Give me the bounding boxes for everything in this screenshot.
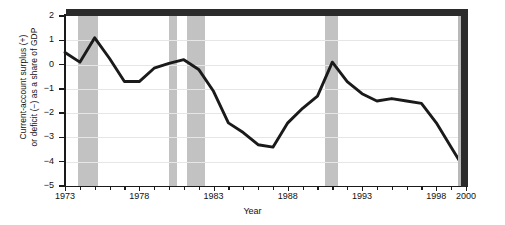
y-tick-label: −2 (20, 107, 54, 117)
x-tick-label: 1983 (192, 191, 236, 201)
x-tick-mark (258, 186, 259, 190)
x-tick-mark (184, 186, 185, 190)
x-tick-mark (228, 186, 229, 190)
x-tick-mark (243, 186, 244, 190)
x-tick-label: 1988 (266, 191, 310, 201)
x-tick-mark (169, 186, 170, 190)
x-tick-mark (407, 186, 408, 190)
y-tick-label: −5 (20, 180, 54, 190)
x-tick-mark (303, 186, 304, 190)
series-line (65, 38, 466, 172)
chart-figure: Current-account surplus (+) or deficit (… (0, 0, 505, 225)
x-axis-label: Year (0, 206, 505, 216)
y-tick-mark (59, 64, 65, 65)
x-tick-label: 2000 (444, 191, 488, 201)
x-tick-mark (80, 186, 81, 190)
x-tick-mark (421, 186, 422, 190)
x-tick-mark (377, 186, 378, 190)
x-tick-mark (332, 186, 333, 190)
x-tick-mark (451, 186, 452, 190)
x-tick-mark (392, 186, 393, 190)
y-tick-label: 0 (20, 59, 54, 69)
y-tick-label: −1 (20, 83, 54, 93)
data-series-line (65, 16, 466, 186)
x-tick-mark (273, 186, 274, 190)
x-tick-mark (154, 186, 155, 190)
plot-top-border (66, 9, 468, 16)
plot-right-border (461, 9, 468, 187)
x-tick-label: 1993 (340, 191, 384, 201)
y-tick-mark (59, 40, 65, 41)
x-tick-label: 1973 (43, 191, 87, 201)
x-tick-mark (347, 186, 348, 190)
y-tick-mark (59, 137, 65, 138)
y-tick-label: −3 (20, 131, 54, 141)
y-tick-mark (59, 112, 65, 113)
x-tick-mark (95, 186, 96, 190)
x-tick-mark (199, 186, 200, 190)
y-tick-mark (59, 15, 65, 16)
y-tick-mark (59, 88, 65, 89)
x-tick-mark (110, 186, 111, 190)
x-tick-label: 1978 (117, 191, 161, 201)
x-tick-mark (124, 186, 125, 190)
x-tick-mark (317, 186, 318, 190)
y-tick-mark (59, 161, 65, 162)
y-tick-label: 1 (20, 34, 54, 44)
y-tick-label: −4 (20, 156, 54, 166)
y-tick-label: 2 (20, 10, 54, 20)
plot-area (65, 16, 466, 186)
